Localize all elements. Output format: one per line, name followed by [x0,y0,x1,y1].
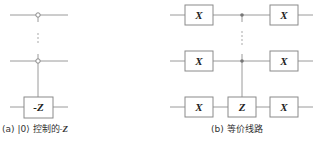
x-gate-label: X [279,101,288,113]
open-control-icon [36,59,40,63]
figure-b-circuit: X X X Z X X X [170,5,313,117]
figure-a-circuit: -Z [10,13,68,118]
caption-a-text: (a) |0⟩ 控制的 [2,124,60,134]
z-gate-label: Z [238,101,246,113]
filled-control-icon [240,13,244,17]
ellipsis-dot [241,39,242,40]
ellipsis-dot [37,33,38,34]
caption-a: (a) |0⟩ 控制的-Z [2,122,68,135]
ellipsis-dot [37,37,38,38]
x-gate-label: X [194,101,203,113]
x-gate-label: X [279,9,288,21]
ellipsis-dot [37,41,38,42]
ellipsis-dot [241,31,242,32]
circuit-diagram: -Z X X X Z [0,0,318,141]
caption-a-math: -Z [60,124,69,134]
neg-z-gate-label: -Z [33,101,44,113]
x-gate-label: X [279,55,288,67]
x-gate-label: X [194,9,203,21]
ellipsis-dot [241,35,242,36]
caption-b: (b) 等价线路 [211,122,263,135]
ellipsis-dot [241,43,242,44]
open-control-icon [36,13,40,17]
x-gate-label: X [194,55,203,67]
filled-control-icon [240,59,244,63]
